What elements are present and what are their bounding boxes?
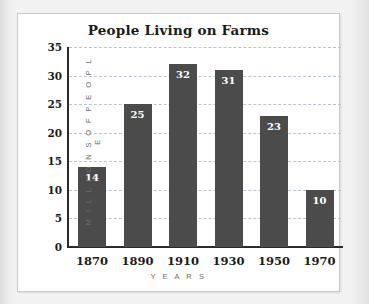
x-axis-tick-label: 1890 bbox=[113, 254, 163, 268]
x-axis-tick-label: 1970 bbox=[295, 254, 345, 268]
bar: 31 bbox=[215, 70, 243, 247]
y-axis-tick-label: 25 bbox=[36, 98, 62, 110]
y-axis-title: M I L L I O N S O F P E O P L E bbox=[84, 56, 102, 226]
x-axis-title: Y E A R S bbox=[18, 272, 339, 281]
bar: 25 bbox=[124, 104, 152, 247]
chart-panel: People Living on Farms 05101520253035 14… bbox=[17, 13, 340, 292]
y-axis-tick-labels: 05101520253035 bbox=[32, 14, 62, 293]
bar-value-label: 31 bbox=[215, 75, 243, 86]
y-axis-tick-label: 15 bbox=[36, 155, 62, 167]
bar-value-label: 25 bbox=[124, 109, 152, 120]
x-axis-tick-label: 1870 bbox=[67, 254, 117, 268]
y-axis-tick-label: 10 bbox=[36, 184, 62, 196]
y-axis-tick-label: 5 bbox=[36, 212, 62, 224]
y-axis-tick-label: 0 bbox=[36, 241, 62, 253]
bar: 10 bbox=[306, 190, 334, 247]
chart-title: People Living on Farms bbox=[18, 22, 339, 38]
y-axis-tick-label: 30 bbox=[36, 70, 62, 82]
bar-value-label: 10 bbox=[306, 195, 334, 206]
x-axis-tick-label: 1910 bbox=[158, 254, 208, 268]
y-axis-tick-label: 35 bbox=[36, 41, 62, 53]
plot-area: 142532312310 bbox=[69, 47, 344, 247]
bar-value-label: 23 bbox=[260, 121, 288, 132]
bar: 32 bbox=[169, 64, 197, 247]
bar-value-label: 32 bbox=[169, 69, 197, 80]
x-axis-tick-label: 1950 bbox=[249, 254, 299, 268]
y-axis-tick-label: 20 bbox=[36, 127, 62, 139]
x-axis-tick-label: 1930 bbox=[204, 254, 254, 268]
bar: 23 bbox=[260, 116, 288, 247]
